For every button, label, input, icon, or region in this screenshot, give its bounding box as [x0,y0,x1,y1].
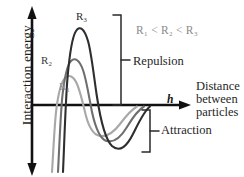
x-axis-title-line-3: particles [196,106,240,119]
attraction-bracket [142,110,159,152]
curve-label-r2: R₂ [41,55,52,67]
y-axis-title: Interaction energy [20,10,34,140]
repulsion-label: Repulsion [133,55,184,68]
attraction-label: Attraction [161,124,212,137]
interaction-energy-diagram: Interaction energy R₃ R₂ R₁ R₁ < R₂ < R₃… [0,0,244,177]
radius-inequality-note: R₁ < R₂ < R₃ [136,24,198,36]
repulsion-bracket [113,15,130,105]
curve-label-r3: R₃ [76,11,87,23]
x-axis-title: Distance between particles [196,80,240,119]
curve-label-r1: R₁ [59,81,70,93]
curve-r3 [63,28,150,172]
h-distance-marker: h [167,93,173,105]
